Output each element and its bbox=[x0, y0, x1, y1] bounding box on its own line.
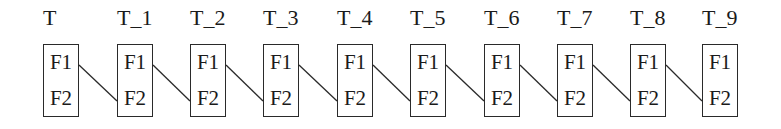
edge-line bbox=[79, 65, 117, 101]
edge-line bbox=[520, 65, 557, 101]
edge-line bbox=[299, 65, 337, 101]
edge-layer bbox=[0, 0, 781, 129]
edge-line bbox=[666, 65, 702, 101]
edge-line bbox=[446, 65, 484, 101]
edge-line bbox=[593, 65, 630, 101]
edge-line bbox=[373, 65, 410, 101]
edge-line bbox=[153, 65, 190, 101]
edge-line bbox=[226, 65, 263, 101]
